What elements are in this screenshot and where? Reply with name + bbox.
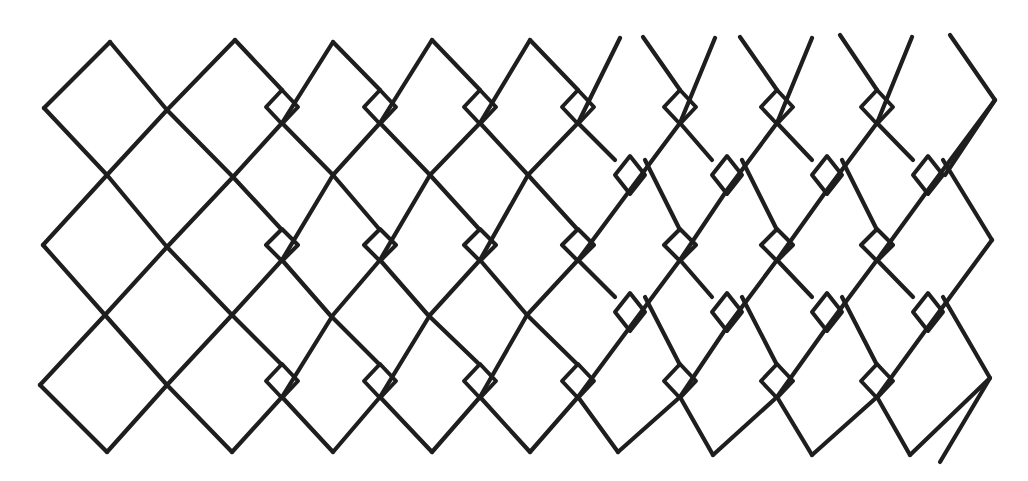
lattice-line [777, 397, 812, 455]
lattice-line [530, 40, 578, 90]
lattice-line [680, 397, 713, 455]
lattice-line [645, 297, 680, 365]
lattice-line [333, 42, 380, 90]
lattice-line [110, 42, 282, 230]
lattice-pattern-figure [0, 0, 1028, 481]
lattice-line [877, 260, 913, 297]
lattice-line [742, 160, 777, 230]
lattice-line [877, 123, 913, 160]
lattice-line [282, 397, 333, 452]
diamond-lattice-drawing [0, 0, 1028, 481]
lattice-line [380, 397, 432, 452]
lattice-line [680, 260, 712, 297]
lattice-line [44, 42, 110, 108]
lattice-line [578, 397, 618, 452]
lattice-line [840, 35, 877, 90]
lattice-line [777, 123, 812, 160]
lattice-line [680, 123, 712, 160]
lattice-line [940, 297, 990, 462]
lattice-line [578, 260, 615, 297]
lattice-line [777, 260, 812, 297]
lattice-line [742, 297, 777, 365]
lattice-line [44, 108, 282, 365]
lattice-line [480, 397, 530, 452]
lattice-line [842, 297, 877, 365]
lattice-line [432, 40, 480, 90]
lattice-line [578, 123, 615, 160]
lattice-line [645, 160, 680, 230]
lattice-lines [40, 35, 995, 462]
lattice-line [740, 37, 777, 90]
lattice-line [235, 40, 282, 90]
lattice-line [842, 160, 877, 230]
lattice-line [877, 397, 910, 455]
lattice-line [40, 385, 107, 452]
lattice-line [333, 38, 620, 452]
lattice-line [40, 42, 333, 385]
lattice-line [643, 37, 680, 90]
lattice-line [943, 160, 992, 240]
